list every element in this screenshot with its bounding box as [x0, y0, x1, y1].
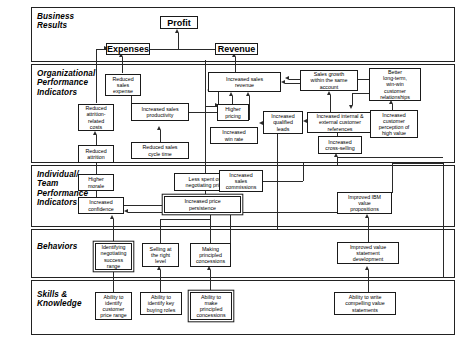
- band-label-business-results: Business Results: [37, 12, 127, 31]
- arrow-into-negotiating-range-up: [110, 215, 114, 219]
- node-increased-price-persistence[interactable]: Increased price persistence: [164, 196, 241, 213]
- node-increased-confidence[interactable]: Increased confidence: [78, 197, 124, 214]
- node-profit[interactable]: Profit: [160, 16, 198, 29]
- node-reduced-attrition[interactable]: Reduced attrition: [78, 145, 114, 163]
- link-isc-feed-riser: [303, 163, 304, 181]
- node-ability-identify-customer-price-range[interactable]: Ability to identify customer price range: [95, 292, 132, 320]
- link-ipp-to-ic: [124, 205, 164, 206]
- link-isp-right: [189, 112, 218, 113]
- node-expenses[interactable]: Expenses: [106, 43, 150, 55]
- link-inr-to-ipp: [113, 219, 114, 243]
- link-icp-feed: [337, 157, 443, 158]
- link-lsnp-to-expenses: [205, 60, 206, 173]
- link-rsct-to-isp: [160, 130, 161, 142]
- node-improved-ibm-value-propositions[interactable]: Improved IBM value propositions: [337, 192, 392, 214]
- link-ra-to-rarc: [96, 135, 97, 145]
- node-reduced-sales-cycle-time[interactable]: Reduced sales cycle time: [131, 142, 189, 159]
- link-sg-to-isr: [285, 83, 300, 84]
- node-selling-at-the-right-level[interactable]: Selling at the right level: [142, 243, 179, 267]
- node-revenue[interactable]: Revenue: [215, 43, 258, 55]
- node-increased-customer-references[interactable]: Increased internal & external customer r…: [307, 112, 373, 133]
- node-making-principled-concessions[interactable]: Making principled concessions: [190, 243, 231, 267]
- node-increased-sales-commissions[interactable]: Increased sales commissions: [219, 170, 263, 192]
- link-awvs-to-ivsd: [368, 270, 369, 292]
- link-br-drop: [352, 93, 353, 105]
- arrow-into-rarc: [93, 131, 97, 135]
- link-rse-to-expenses: [122, 57, 123, 73]
- node-ability-make-principled-concessions[interactable]: Ability to make principled concessions: [190, 292, 232, 320]
- node-higher-morale[interactable]: Higher morale: [78, 174, 114, 191]
- link-right-spine: [443, 163, 444, 278]
- arrow-into-isr-right: [281, 80, 285, 84]
- link-right-spine-top: [392, 163, 443, 164]
- node-increased-customer-perception[interactable]: Increased customer perception of high va…: [370, 110, 418, 138]
- link-ivsd-to-ivp: [368, 218, 369, 242]
- node-reduced-sales-expense[interactable]: Reduced sales expense: [105, 74, 141, 96]
- node-improved-value-statement-development[interactable]: Improved value statement development: [337, 242, 399, 264]
- link-rse-drop: [131, 96, 132, 103]
- arrow-into-sg-right: [285, 76, 289, 80]
- node-increased-cross-selling[interactable]: Increased cross-selling: [318, 136, 362, 154]
- node-increased-sales-revenue[interactable]: Increased sales revenue: [208, 72, 281, 92]
- arrow-ivp-to-confidence: [124, 209, 128, 213]
- link-iwr-to-isr: [249, 96, 250, 120]
- diagram-canvas: Business Results Organizational Performa…: [0, 0, 461, 343]
- link-ampc-to-mpc: [210, 270, 211, 292]
- node-sales-growth-same-account[interactable]: Sales growth within the same account: [300, 70, 358, 91]
- link-acpr-to-inr: [113, 270, 114, 292]
- node-identifying-negotiating-success-range[interactable]: Identifying negotiating success range: [95, 243, 132, 270]
- link-isr-to-revenue: [235, 57, 236, 72]
- arrow-into-profit: [175, 29, 179, 33]
- arrow-into-ivp: [365, 214, 369, 218]
- link-ipp-feed-right: [230, 212, 231, 243]
- node-increased-qualified-leads[interactable]: Increased qualified leads: [263, 111, 303, 134]
- arrow-into-ivsd: [365, 266, 369, 270]
- link-hp-to-isr: [232, 96, 233, 104]
- link-spine-to-profit: [178, 33, 179, 49]
- arrow-into-sg-bottom: [327, 91, 331, 95]
- link-ics-from-below: [337, 157, 338, 165]
- arrow-into-isr-bottom2: [246, 92, 250, 96]
- node-ability-write-compelling-value-statements[interactable]: Ability to write compelling value statem…: [334, 292, 396, 315]
- link-srl-join: [160, 219, 210, 220]
- node-ability-identify-key-buying-roles[interactable]: Ability to identify key buying roles: [140, 292, 182, 315]
- link-ipp-feed-left: [210, 212, 211, 219]
- link-mpc-up: [210, 219, 211, 243]
- arrow-into-icr-top: [349, 105, 353, 109]
- link-akbr-to-srl: [160, 270, 161, 292]
- link-rarc-riser: [96, 49, 97, 103]
- link-icr-to-sg: [330, 95, 331, 112]
- node-higher-pricing[interactable]: Higher pricing: [217, 104, 249, 121]
- link-ivp-up: [392, 163, 393, 193]
- node-better-relationships[interactable]: Better long-term, win-win customer relat…: [369, 68, 421, 101]
- link-srl-up: [160, 219, 161, 243]
- node-increased-sales-productivity[interactable]: Increased sales productivity: [131, 103, 189, 121]
- link-expenses-revenue-spine: [144, 49, 212, 50]
- arrow-into-isp: [157, 126, 161, 130]
- node-reduced-attrition-related-costs[interactable]: Reduced attrition- related costs: [78, 104, 114, 131]
- link-isc-feed: [263, 181, 303, 182]
- node-increased-win-rate[interactable]: Increased win rate: [210, 127, 258, 144]
- arrow-into-isr-bottom1: [229, 92, 233, 96]
